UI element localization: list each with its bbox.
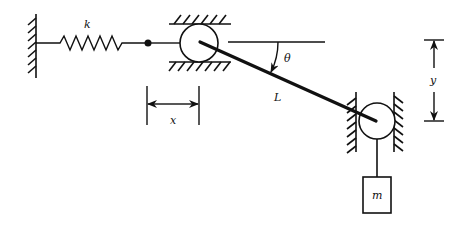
angle-arrow — [271, 42, 278, 72]
left-wall — [28, 14, 36, 78]
mass-label: m — [372, 189, 382, 202]
angle-label: θ — [284, 52, 291, 65]
x-displacement-label: x — [170, 114, 177, 127]
spring-constant-label: k — [84, 18, 91, 31]
mechanism-diagram: k — [0, 0, 466, 226]
rod-length-label: L — [273, 91, 281, 104]
spring — [36, 36, 148, 50]
y-displacement-label: y — [429, 74, 437, 87]
